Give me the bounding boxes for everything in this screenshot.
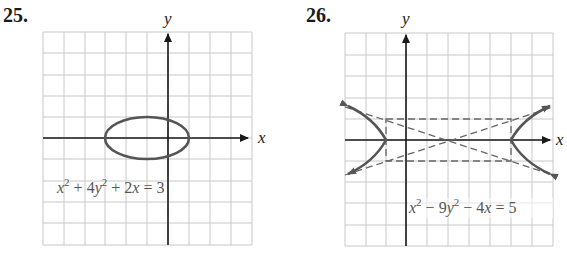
asymptote-26-a — [345, 107, 553, 175]
asymptote-26-b — [345, 107, 553, 175]
x-axis-label-26: x — [555, 130, 564, 149]
y-axis-label-25: y — [162, 9, 172, 28]
hyperbola-left-branch-26 — [348, 106, 386, 140]
hyperbola-left-branch-26-lower — [348, 140, 386, 174]
y-axis-label-26: y — [400, 9, 410, 28]
graphs-canvas: x y x2 + 4y2 + 2x = 3 — [0, 0, 567, 262]
equation-label-26: x2 − 9y2 − 4x = 5 — [408, 196, 516, 217]
hyperbola-right-branch-26 — [511, 106, 550, 140]
graph-25: x y x2 + 4y2 + 2x = 3 — [43, 9, 266, 245]
graph-26: x y x2 − 9y2 − 4x = 5 — [345, 9, 564, 246]
hyperbola-right-branch-26-lower — [511, 140, 550, 174]
x-axis-label-25: x — [257, 128, 266, 147]
equation-label-25: x2 + 4y2 + 2x = 3 — [56, 176, 164, 197]
